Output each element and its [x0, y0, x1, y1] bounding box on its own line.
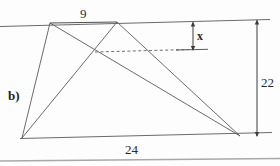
- geometry-figure: b) 9 24 22 x: [0, 0, 280, 166]
- dimension-x-arrow: [191, 22, 195, 52]
- measurement-label-x: x: [197, 30, 203, 42]
- dimension-height-arrow: [255, 20, 259, 138]
- page-rule-line: [0, 159, 280, 162]
- part-label-b: b): [8, 89, 20, 102]
- edge-apex-to-bottomright: [117, 22, 240, 136]
- dashed-line-solid-extension: [176, 49, 208, 50]
- dashed-height-line: [95, 50, 189, 53]
- measurement-label-top-side: 9: [80, 7, 87, 20]
- diagonal-topleft-to-bottomright: [50, 23, 240, 136]
- measurement-label-right-height: 22: [261, 76, 274, 89]
- top-construction-line: [0, 20, 270, 27]
- geometry-drawing: [0, 0, 280, 166]
- measurement-label-bottom-side: 24: [125, 143, 138, 156]
- top-edge-nine: [50, 22, 117, 23]
- bottom-base-line: [20, 133, 272, 139]
